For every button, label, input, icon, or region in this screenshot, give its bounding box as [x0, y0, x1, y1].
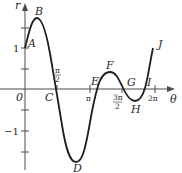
- point-label-h: H: [130, 103, 141, 116]
- point-label-f: F: [105, 59, 114, 72]
- point-label-e: E: [90, 75, 99, 88]
- tick-label-three-pi-half: 3π 2: [113, 93, 123, 111]
- tick-label-pi: π: [86, 94, 91, 103]
- svg-text:2: 2: [115, 102, 120, 111]
- tick-label-two-pi: 2π: [148, 94, 158, 103]
- tick-label-pi-half: π 2: [55, 66, 61, 84]
- point-label-g: G: [127, 76, 136, 89]
- point-label-c: C: [45, 91, 54, 104]
- svg-text:π: π: [55, 66, 60, 75]
- polar-function-graph: r θ 0 1 −1 π 2 π 3π 2 2π A B C D E F G H…: [0, 0, 182, 173]
- origin-label: 0: [16, 91, 23, 104]
- svg-text:3π: 3π: [113, 93, 123, 102]
- svg-text:2: 2: [55, 75, 60, 84]
- point-label-d: D: [72, 162, 82, 173]
- y-tick-label-1: 1: [13, 43, 19, 54]
- r-axis-arrow-icon: [22, 3, 28, 11]
- y-tick-label-neg-1: −1: [4, 126, 19, 137]
- point-label-b: B: [34, 5, 43, 18]
- function-curve: [25, 18, 153, 162]
- r-axis-label: r: [15, 0, 21, 12]
- point-label-i: I: [146, 76, 152, 89]
- theta-axis-arrow-icon: [167, 86, 175, 92]
- point-label-j: J: [156, 38, 163, 51]
- point-label-a: A: [27, 37, 36, 50]
- theta-axis-label: θ: [170, 93, 177, 106]
